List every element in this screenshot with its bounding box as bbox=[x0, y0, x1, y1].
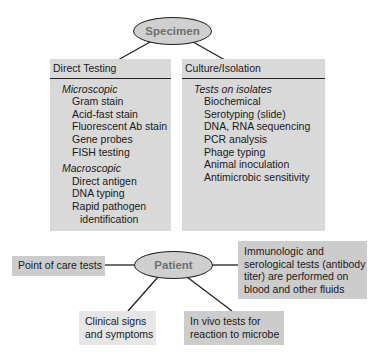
list-item: Acid-fast stain bbox=[50, 108, 171, 121]
list-item: DNA typing bbox=[50, 187, 171, 200]
clinical-signs-box: Clinical signs and symptoms bbox=[79, 311, 156, 345]
text-line: In vivo tests for bbox=[190, 315, 278, 328]
in-vivo-box: In vivo tests for reaction to microbe bbox=[184, 311, 284, 345]
text-line: reaction to microbe bbox=[190, 328, 278, 341]
list-item: DNA, RNA sequencing bbox=[182, 120, 325, 133]
list-item: Gene probes bbox=[50, 133, 171, 146]
specimen-node: Specimen bbox=[133, 17, 212, 45]
tests-on-isolates-label: Tests on isolates bbox=[182, 83, 325, 96]
immunologic-box: Immunologic and serological tests (antib… bbox=[238, 241, 367, 299]
text-line: Immunologic and bbox=[244, 245, 361, 258]
list-item: Biochemical bbox=[182, 95, 325, 108]
text-line: and symptoms bbox=[85, 328, 150, 341]
text-line: titer) are performed on bbox=[244, 270, 361, 283]
list-item: FISH testing bbox=[50, 146, 171, 159]
connector-specimen-direct bbox=[118, 42, 150, 60]
list-item: Gram stain bbox=[50, 95, 171, 108]
text-line: Clinical signs bbox=[85, 315, 150, 328]
direct-testing-panel: Direct Testing Microscopic Gram stain Ac… bbox=[50, 59, 171, 231]
list-item: Serotyping (slide) bbox=[182, 108, 325, 121]
microscopic-label: Microscopic bbox=[50, 83, 171, 96]
text-line: serological tests (antibody bbox=[244, 258, 361, 271]
text-line: blood and other fluids bbox=[244, 283, 361, 296]
macroscopic-label: Macroscopic bbox=[50, 162, 171, 175]
direct-testing-title: Direct Testing bbox=[50, 59, 171, 79]
list-item: identification bbox=[50, 213, 171, 226]
patient-node: Patient bbox=[134, 251, 213, 279]
list-item: Antimicrobic sensitivity bbox=[182, 171, 325, 184]
list-item: Phage typing bbox=[182, 146, 325, 159]
list-item: Rapid pathogen bbox=[50, 200, 171, 213]
list-item: PCR analysis bbox=[182, 133, 325, 146]
patient-label: Patient bbox=[154, 259, 192, 271]
point-of-care-label: Point of care tests bbox=[18, 259, 102, 271]
list-item: Animal inoculation bbox=[182, 158, 325, 171]
connector-patient-invivo bbox=[187, 277, 232, 311]
point-of-care-box: Point of care tests bbox=[12, 256, 105, 276]
connector-patient-clinical bbox=[128, 277, 158, 311]
culture-isolation-panel: Culture/Isolation Tests on isolates Bioc… bbox=[182, 59, 325, 231]
list-item: Direct antigen bbox=[50, 175, 171, 188]
list-item: Fluorescent Ab stain bbox=[50, 120, 171, 133]
specimen-label: Specimen bbox=[145, 25, 199, 37]
culture-isolation-title: Culture/Isolation bbox=[182, 59, 325, 79]
connector-specimen-culture bbox=[193, 42, 225, 60]
